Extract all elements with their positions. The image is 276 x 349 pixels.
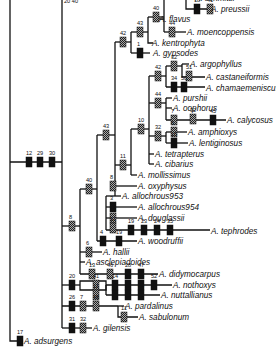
character-number: 26 bbox=[69, 294, 75, 300]
solid-character-marker bbox=[171, 82, 177, 92]
solid-character-marker bbox=[171, 138, 177, 148]
character-number: 3 bbox=[110, 195, 113, 201]
character-number: 34 bbox=[171, 75, 177, 81]
solid-character-marker bbox=[128, 225, 134, 235]
solid-character-marker bbox=[167, 225, 173, 235]
hatched-character-marker bbox=[137, 27, 143, 37]
taxon-label: A. preussii bbox=[210, 5, 249, 14]
character-number: 40 bbox=[153, 5, 159, 11]
taxon-label: A. nuttallianus bbox=[160, 291, 212, 300]
character-number: 49 bbox=[138, 283, 144, 289]
character-number: 1 bbox=[137, 41, 140, 47]
hatched-character-marker bbox=[110, 181, 116, 191]
character-number: 32 bbox=[155, 124, 161, 130]
taxon-label: A. chamaemeniscus bbox=[205, 84, 276, 93]
taxon-label: A. adsurgens bbox=[23, 337, 72, 346]
character-number: 43 bbox=[137, 20, 143, 26]
solid-character-marker bbox=[69, 301, 75, 311]
solid-character-marker bbox=[49, 157, 55, 167]
hatched-character-marker bbox=[120, 160, 126, 170]
character-number: 2 bbox=[112, 283, 115, 289]
character-number: 7 bbox=[80, 294, 83, 300]
taxon-label: A. schmittii bbox=[194, 0, 235, 3]
taxon-label: A. tephrodes bbox=[210, 227, 257, 236]
taxon-label: A. allochrous953 bbox=[121, 192, 183, 201]
taxon-label: A. flavus bbox=[158, 15, 190, 24]
taxon-label: A. douglassii bbox=[137, 214, 185, 223]
hatched-character-marker bbox=[80, 301, 86, 311]
phylogenetic-tree: 1229308404311104243140441841423251345044… bbox=[0, 0, 276, 349]
character-number: 44 bbox=[155, 91, 161, 97]
taxon-label: A. purshii bbox=[172, 94, 207, 103]
hatched-character-marker bbox=[69, 221, 75, 231]
solid-character-marker bbox=[112, 290, 118, 300]
character-number: 51 bbox=[110, 216, 116, 222]
solid-character-marker bbox=[26, 157, 32, 167]
taxon-label: A. mollissimus bbox=[137, 171, 190, 180]
hatched-character-marker bbox=[155, 71, 161, 81]
character-number: 11 bbox=[120, 153, 126, 159]
character-number: 10 bbox=[138, 117, 144, 123]
taxon-label: A. kentrophyta bbox=[151, 39, 205, 48]
taxon-label: A. gilensis bbox=[92, 324, 130, 333]
character-number: 36 bbox=[138, 273, 144, 279]
taxon-label: A. argophyllus bbox=[189, 60, 242, 69]
hatched-character-marker bbox=[190, 114, 196, 124]
solid-character-marker bbox=[181, 82, 187, 92]
character-number: 17 bbox=[17, 329, 23, 335]
solid-character-marker bbox=[141, 225, 147, 235]
taxon-label: A. castaneiformis bbox=[205, 73, 269, 82]
character-number: 14 bbox=[112, 273, 118, 279]
taxon-label: A. tetrapterus bbox=[154, 150, 204, 159]
character-number: 11 bbox=[93, 283, 99, 289]
character-number: 42 bbox=[155, 64, 161, 70]
character-number: 13 bbox=[110, 206, 116, 212]
character-number: 19 bbox=[116, 229, 122, 235]
character-number: 6 bbox=[86, 240, 89, 246]
taxon-label: A. oophorus bbox=[172, 104, 217, 113]
character-number: 41 bbox=[93, 273, 99, 279]
hatched-character-marker bbox=[120, 37, 126, 47]
character-number: 8 bbox=[110, 174, 113, 180]
taxon-label: A. sabulonum bbox=[138, 313, 189, 322]
hatched-character-marker bbox=[169, 27, 175, 37]
character-number: 42 bbox=[120, 30, 126, 36]
taxon-label: A. amphioxys bbox=[187, 128, 237, 137]
solid-character-marker bbox=[138, 290, 144, 300]
taxon-label: A. cibarius bbox=[154, 160, 193, 169]
solid-character-marker bbox=[154, 225, 160, 235]
character-number: 12 bbox=[26, 150, 32, 156]
solid-character-marker bbox=[210, 115, 216, 125]
solid-character-marker bbox=[69, 280, 75, 290]
taxon-label: A. nothoxys bbox=[172, 281, 216, 290]
character-number: 43 bbox=[103, 123, 109, 129]
solid-character-marker bbox=[37, 157, 43, 167]
hatched-character-marker bbox=[80, 323, 86, 333]
solid-character-marker bbox=[116, 236, 122, 246]
taxon-label: A. oxyphysus bbox=[137, 182, 187, 191]
character-number: 32 bbox=[80, 316, 86, 322]
taxon-label: A. moencoppensis bbox=[186, 28, 254, 37]
solid-character-marker bbox=[100, 236, 106, 246]
character-number: 52 bbox=[151, 273, 157, 279]
character-number: 15 bbox=[171, 131, 177, 137]
top-partial-label: 20 40 bbox=[64, 0, 78, 4]
taxon-label: A. gypsodes bbox=[152, 49, 198, 58]
solid-character-marker bbox=[151, 280, 157, 290]
character-number: 8 bbox=[69, 214, 72, 220]
character-number: 20 bbox=[69, 273, 75, 279]
character-number: 4 bbox=[100, 229, 103, 235]
character-number: 29 bbox=[37, 150, 43, 156]
solid-character-marker bbox=[69, 323, 75, 333]
character-number: 19 bbox=[128, 218, 134, 224]
character-number: 9 bbox=[125, 283, 128, 289]
character-number: 40 bbox=[86, 177, 92, 183]
taxon-label: A. woodruffii bbox=[137, 237, 183, 246]
solid-character-marker bbox=[125, 290, 131, 300]
taxon-label: A. didymocarpus bbox=[158, 270, 220, 279]
character-number: 6 bbox=[171, 120, 174, 126]
character-number: 30 bbox=[49, 150, 55, 156]
taxon-label: A. lentiginosus bbox=[188, 139, 242, 148]
solid-character-marker bbox=[137, 48, 143, 58]
character-number: 48 bbox=[93, 294, 99, 300]
